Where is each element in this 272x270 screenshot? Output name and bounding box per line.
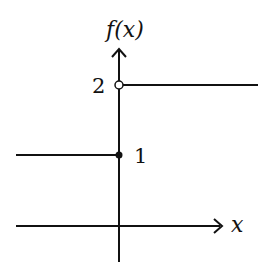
open-point (115, 81, 123, 89)
x-axis-label: x (231, 212, 244, 237)
y-tick-2: 2 (92, 74, 105, 98)
closed-point (116, 152, 123, 159)
y-axis-label: f(x) (104, 17, 144, 42)
y-tick-1: 1 (134, 144, 147, 168)
step-function-graph: f(x) x 2 1 (0, 0, 272, 270)
